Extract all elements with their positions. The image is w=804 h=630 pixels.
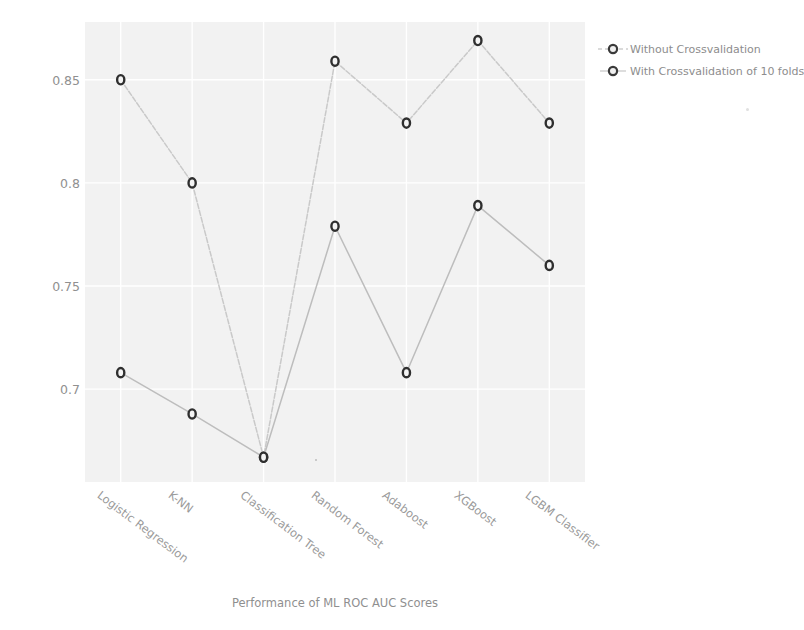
x-tick-label: XGBoost xyxy=(451,488,499,529)
data-point-marker[interactable] xyxy=(260,453,267,462)
y-axis-ticks: 0.70.750.80.85 xyxy=(28,22,80,482)
y-tick-label: 0.7 xyxy=(38,382,80,397)
x-tick-label: K-NN xyxy=(166,488,197,516)
stray-speck xyxy=(746,108,749,111)
data-point-marker[interactable] xyxy=(474,201,481,210)
data-point-marker[interactable] xyxy=(546,261,553,270)
data-point-marker[interactable] xyxy=(403,118,410,127)
chart-legend: Without Crossvalidation With Crossvalida… xyxy=(598,38,798,82)
data-point-marker[interactable] xyxy=(331,222,338,231)
data-point-marker[interactable] xyxy=(403,368,410,377)
data-point-marker[interactable] xyxy=(189,178,196,187)
x-tick-label: LGBM Classifier xyxy=(523,488,603,553)
y-tick-label: 0.8 xyxy=(38,175,80,190)
x-tick-label: Adaboost xyxy=(380,488,431,532)
data-point-marker[interactable] xyxy=(546,118,553,127)
plot-svg xyxy=(85,22,585,482)
legend-item[interactable]: Without Crossvalidation xyxy=(598,38,798,60)
data-point-marker[interactable] xyxy=(117,75,124,84)
plot-area xyxy=(85,22,585,482)
legend-label: With Crossvalidation of 10 folds xyxy=(630,65,804,78)
data-point-marker[interactable] xyxy=(474,36,481,45)
legend-marker-circle-icon xyxy=(598,64,628,78)
x-axis-title: Performance of ML ROC AUC Scores xyxy=(85,596,585,610)
legend-label: Without Crossvalidation xyxy=(630,43,761,56)
data-point-marker[interactable] xyxy=(189,409,196,418)
data-point-marker[interactable] xyxy=(117,368,124,377)
legend-item[interactable]: With Crossvalidation of 10 folds xyxy=(598,60,798,82)
x-axis-ticks: Logistic RegressionK-NNClassification Tr… xyxy=(85,482,585,582)
y-tick-label: 0.75 xyxy=(38,279,80,294)
x-tick-label: Random Forest xyxy=(309,488,387,551)
legend-marker-circle-icon xyxy=(598,42,628,56)
y-tick-label: 0.85 xyxy=(38,72,80,87)
stray-speck xyxy=(315,459,317,461)
data-point-marker[interactable] xyxy=(331,57,338,66)
